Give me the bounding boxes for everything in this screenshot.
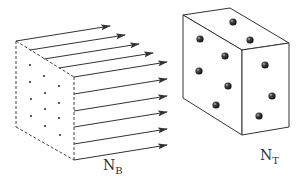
target-label-main: N: [260, 147, 272, 163]
target-label: NT: [260, 148, 279, 166]
beam-label-sub: B: [115, 165, 122, 176]
beam-label-main: N: [103, 157, 115, 173]
beam-arrow: [74, 112, 167, 127]
beam-label: NB: [103, 158, 123, 176]
beam-arrow: [74, 129, 167, 144]
beam-arrow: [74, 96, 167, 111]
beam-arrow: [30, 35, 125, 50]
beam-arrow: [59, 53, 153, 68]
beam-arrow: [44, 44, 139, 59]
target-label-sub: T: [272, 155, 279, 166]
beam-arrow: [16, 26, 110, 41]
beam-arrow: [74, 62, 167, 77]
beam-arrow: [74, 79, 167, 94]
beam-particles: [29, 64, 61, 136]
